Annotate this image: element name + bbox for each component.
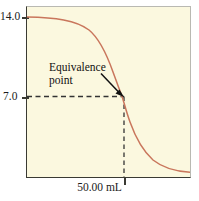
x-axis-label-volume: 50.00 mL	[0, 182, 199, 194]
y-axis-tick-7	[22, 97, 29, 99]
y-axis-tick-14	[22, 17, 29, 19]
y-axis-label-14: 14.0	[0, 11, 20, 23]
annotation-line-2: point	[49, 74, 106, 87]
y-axis-label-7: 7.0	[3, 91, 17, 103]
titration-curve-figure: 14.0 7.0 50.00 mL Equivalence point	[0, 0, 199, 201]
plot-area	[26, 6, 191, 178]
equivalence-point-annotation: Equivalence point	[49, 61, 106, 86]
annotation-line-1: Equivalence	[49, 61, 106, 74]
